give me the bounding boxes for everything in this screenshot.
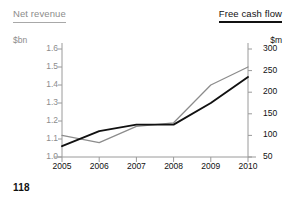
axis-lines	[54, 43, 256, 162]
figure-net-revenue-free-cash-flow: Net revenue Free cash flow $bn $m 1.61.5…	[0, 0, 291, 201]
page-number: 118	[13, 182, 30, 193]
data-series	[62, 67, 248, 146]
chart-plot-area	[0, 0, 291, 201]
